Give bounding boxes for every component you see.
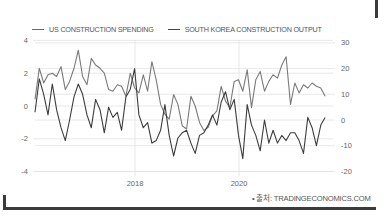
line-chart: 420-2-4 3020100-10-20 20182020 — [0, 0, 388, 216]
chart-gridlines — [33, 40, 335, 176]
y-left-tick-label: 0 — [24, 102, 28, 111]
x-tick-label: 2018 — [127, 179, 144, 188]
frame-border-bottom — [3, 207, 376, 210]
y-left-tick-label: 2 — [24, 69, 28, 78]
y-axis-right: 3020100-10-20 — [341, 38, 352, 176]
y-right-tick-label: 20 — [341, 64, 349, 73]
y-right-tick-label: 30 — [341, 38, 349, 47]
series-line-us-construction-spending — [35, 50, 325, 130]
y-left-tick-label: -4 — [21, 167, 28, 176]
y-axis-left: 420-2-4 — [21, 36, 28, 176]
y-right-tick-label: 0 — [341, 116, 345, 125]
y-left-tick-label: -2 — [21, 134, 28, 143]
y-right-tick-label: -10 — [341, 141, 352, 150]
x-axis: 20182020 — [127, 179, 248, 188]
y-right-tick-label: -20 — [341, 167, 352, 176]
x-tick-label: 2020 — [231, 179, 248, 188]
y-right-tick-label: 10 — [341, 90, 349, 99]
source-credit: • 출처: TRADINGECONOMICS.COM — [252, 192, 371, 203]
y-left-tick-label: 4 — [24, 36, 28, 45]
